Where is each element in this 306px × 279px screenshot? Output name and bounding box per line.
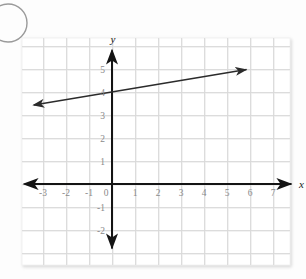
y-axis-label: y (110, 33, 116, 45)
x-tick-label: 1 (133, 188, 138, 198)
y-tick-label: -1 (97, 203, 105, 213)
y-tick-label: 4 (100, 88, 105, 98)
x-tick-label: -1 (85, 188, 93, 198)
y-tick-label: 1 (100, 157, 105, 167)
y-tick-label: -2 (97, 226, 105, 236)
x-tick-label: 2 (156, 188, 161, 198)
graph-figure: -3-2-101234567 -2-112345 x y (0, 0, 306, 279)
x-tick-label: 6 (248, 188, 253, 198)
y-tick-label: 5 (100, 65, 105, 75)
x-tick-label: 4 (202, 188, 207, 198)
y-tick-label: 2 (100, 134, 105, 144)
x-tick-label: -2 (62, 188, 70, 198)
x-tick-label: 0 (104, 188, 109, 198)
x-tick-label: 5 (225, 188, 230, 198)
x-tick-label: -3 (39, 188, 47, 198)
x-tick-label: 3 (179, 188, 184, 198)
coordinate-plane-graphic: -3-2-101234567 -2-112345 x y (0, 0, 306, 279)
y-tick-label: 3 (100, 111, 105, 121)
x-tick-label: 7 (271, 188, 276, 198)
x-axis-label: x (298, 178, 304, 190)
